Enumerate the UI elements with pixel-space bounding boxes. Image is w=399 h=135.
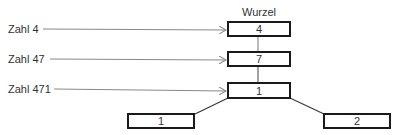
tree-node-2-right: 2 (323, 113, 391, 129)
edge-1-left (195, 98, 228, 114)
tree-node-7: 7 (227, 51, 291, 67)
pointer-arrow-4 (43, 29, 226, 30)
pointer-arrow-47 (50, 59, 226, 60)
tree-node-1-left: 1 (127, 113, 195, 129)
pointer-arrow-471 (54, 89, 226, 91)
root-label: Wurzel (242, 6, 276, 18)
pointer-label-zahl-471: Zahl 471 (8, 83, 51, 95)
edge-1-right (290, 98, 324, 114)
pointer-label-zahl-4: Zahl 4 (8, 23, 39, 35)
tree-node-1-middle: 1 (227, 82, 291, 99)
tree-node-4: 4 (227, 21, 291, 37)
pointer-label-zahl-47: Zahl 47 (8, 53, 45, 65)
